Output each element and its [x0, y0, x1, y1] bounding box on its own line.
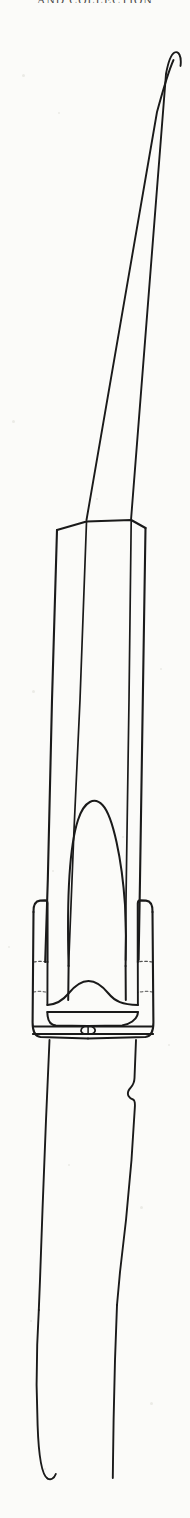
figure-page: AND COLLECTION — [0, 0, 190, 1518]
mid-band-left-edge — [45, 530, 57, 962]
artifact-line-drawing — [0, 0, 190, 1518]
mid-band-inner-right-bevel — [126, 521, 132, 960]
collar-right-construction-arc — [138, 961, 152, 962]
tang-point-tip — [48, 1474, 56, 1479]
mid-band-top-left-step — [57, 522, 87, 531]
tang-point-right — [113, 1305, 117, 1478]
wavy-inner-band-top — [47, 981, 137, 1005]
tang-point-left — [37, 1310, 48, 1479]
collar-right-outer-vertical — [88, 912, 153, 1039]
wavy-band-lower-edge — [47, 1012, 138, 1026]
tang-left-edge — [39, 1040, 50, 1310]
tang-right-edge — [117, 1040, 136, 1305]
mid-band-top-shoulder — [87, 520, 146, 528]
central-dome-outline — [68, 801, 126, 966]
mid-band-right-edge — [139, 528, 146, 960]
collar-left-lower-arc — [33, 991, 47, 992]
collar-left-outer-vertical — [33, 912, 88, 1039]
mid-band-inner-left-bevel — [69, 522, 87, 966]
collar-left-construction-arc — [34, 961, 48, 962]
blade-left-edge — [87, 60, 174, 520]
collar-right-lower-arc — [138, 991, 153, 992]
